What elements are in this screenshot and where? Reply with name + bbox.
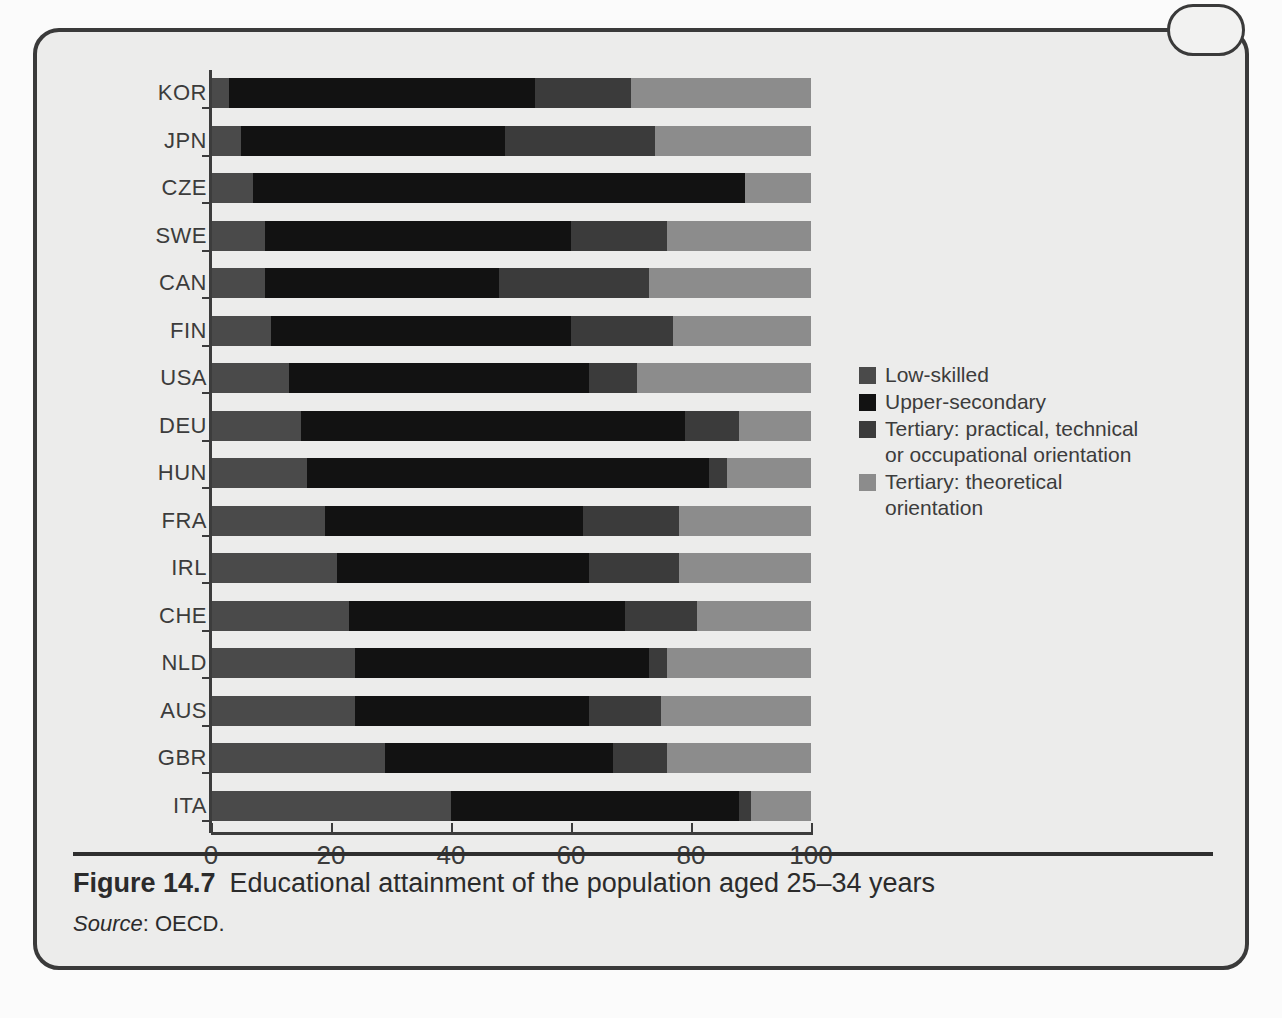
stacked-bar <box>211 791 811 821</box>
bar-segment-series-0 <box>211 506 325 536</box>
bar-row: FRA <box>211 506 811 536</box>
category-label-can: CAN <box>87 268 207 298</box>
x-axis-tick <box>211 823 213 835</box>
figure-caption: Figure 14.7Educational attainment of the… <box>73 868 1213 937</box>
figure-box: KORJPNCZESWECANFINUSADEUHUNFRAIRLCHENLDA… <box>33 28 1249 970</box>
bar-row: IRL <box>211 553 811 583</box>
bar-row: FIN <box>211 316 811 346</box>
bar-segment-series-0 <box>211 126 241 156</box>
bar-row: USA <box>211 363 811 393</box>
x-axis-tick <box>811 823 813 835</box>
bar-segment-series-1 <box>265 268 499 298</box>
caption-divider <box>73 852 1213 856</box>
bar-segment-series-3 <box>649 268 811 298</box>
legend-item-3[interactable]: Tertiary: theoretical orientation <box>859 469 1209 521</box>
legend-swatch-icon <box>859 394 876 411</box>
legend-item-2[interactable]: Tertiary: practical, technical or occupa… <box>859 416 1209 468</box>
legend-label: Tertiary: practical, technical or occupa… <box>885 416 1138 468</box>
bar-segment-series-3 <box>655 126 811 156</box>
bar-segment-series-2 <box>589 696 661 726</box>
bar-segment-series-2 <box>685 411 739 441</box>
x-axis-tick <box>691 823 693 835</box>
category-label-usa: USA <box>87 363 207 393</box>
x-axis-tick <box>451 823 453 835</box>
bar-segment-series-3 <box>679 506 811 536</box>
bar-segment-series-2 <box>535 78 631 108</box>
bar-segment-series-0 <box>211 173 253 203</box>
bar-segment-series-1 <box>265 221 571 251</box>
category-label-gbr: GBR <box>87 743 207 773</box>
stacked-bar <box>211 126 811 156</box>
bar-segment-series-1 <box>325 506 583 536</box>
legend-label: Low-skilled <box>885 362 989 388</box>
bar-segment-series-2 <box>625 601 697 631</box>
bar-segment-series-2 <box>589 553 679 583</box>
page-background: the country — institutional features of … <box>0 0 1282 1018</box>
caption-text: Educational attainment of the population… <box>230 868 936 898</box>
bar-segment-series-1 <box>337 553 589 583</box>
bar-segment-series-2 <box>709 458 727 488</box>
bar-segment-series-1 <box>349 601 625 631</box>
bar-row: AUS <box>211 696 811 726</box>
bar-segment-series-2 <box>571 316 673 346</box>
bar-segment-series-2 <box>505 126 655 156</box>
bar-segment-series-1 <box>307 458 709 488</box>
bar-segment-series-3 <box>667 743 811 773</box>
category-label-aus: AUS <box>87 696 207 726</box>
stacked-bar <box>211 268 811 298</box>
category-label-swe: SWE <box>87 221 207 251</box>
source-label: Source <box>73 911 143 936</box>
bar-row: SWE <box>211 221 811 251</box>
bar-row: HUN <box>211 458 811 488</box>
bar-segment-series-3 <box>679 553 811 583</box>
category-label-irl: IRL <box>87 553 207 583</box>
bar-segment-series-2 <box>571 221 667 251</box>
bar-segment-series-2 <box>613 743 667 773</box>
bar-segment-series-3 <box>631 78 811 108</box>
bar-segment-series-3 <box>661 696 811 726</box>
caption-line: Figure 14.7Educational attainment of the… <box>73 868 1213 899</box>
stacked-bar <box>211 173 811 203</box>
bar-segment-series-3 <box>697 601 811 631</box>
bar-segment-series-0 <box>211 601 349 631</box>
chart-area: KORJPNCZESWECANFINUSADEUHUNFRAIRLCHENLDA… <box>37 32 1253 842</box>
bar-segment-series-1 <box>301 411 685 441</box>
bar-row: CAN <box>211 268 811 298</box>
stacked-bar <box>211 553 811 583</box>
bar-segment-series-1 <box>289 363 589 393</box>
bar-segment-series-0 <box>211 411 301 441</box>
category-label-hun: HUN <box>87 458 207 488</box>
bar-segment-series-3 <box>673 316 811 346</box>
stacked-bar <box>211 601 811 631</box>
category-label-kor: KOR <box>87 78 207 108</box>
legend-item-0[interactable]: Low-skilled <box>859 362 1209 388</box>
bar-row: JPN <box>211 126 811 156</box>
stacked-bar <box>211 78 811 108</box>
bar-segment-series-1 <box>385 743 613 773</box>
bar-segment-series-3 <box>745 173 811 203</box>
category-label-che: CHE <box>87 601 207 631</box>
legend-item-1[interactable]: Upper-secondary <box>859 389 1209 415</box>
bar-segment-series-1 <box>229 78 535 108</box>
bar-segment-series-2 <box>499 268 649 298</box>
legend-label: Tertiary: theoretical orientation <box>885 469 1062 521</box>
category-label-fra: FRA <box>87 506 207 536</box>
y-axis-line <box>209 70 212 833</box>
stacked-bar <box>211 743 811 773</box>
category-label-ita: ITA <box>87 791 207 821</box>
stacked-bar <box>211 648 811 678</box>
x-axis-tick <box>331 823 333 835</box>
category-label-nld: NLD <box>87 648 207 678</box>
plot-region: KORJPNCZESWECANFINUSADEUHUNFRAIRLCHENLDA… <box>211 70 811 830</box>
stacked-bar <box>211 316 811 346</box>
category-label-jpn: JPN <box>87 126 207 156</box>
bar-segment-series-0 <box>211 363 289 393</box>
category-label-deu: DEU <box>87 411 207 441</box>
stacked-bar <box>211 458 811 488</box>
bar-row: KOR <box>211 78 811 108</box>
bar-segment-series-1 <box>253 173 745 203</box>
bar-segment-series-0 <box>211 78 229 108</box>
bar-segment-series-2 <box>583 506 679 536</box>
bar-row: ITA <box>211 791 811 821</box>
stacked-bar <box>211 411 811 441</box>
